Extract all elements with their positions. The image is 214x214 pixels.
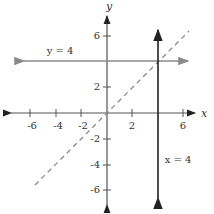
x-tick-label: 2 xyxy=(129,120,135,131)
y-tick-label: -4 xyxy=(90,159,100,170)
y-tick-label: 2 xyxy=(94,81,100,92)
label-x-equals-4: x = 4 xyxy=(165,154,192,165)
y-tick-label: 6 xyxy=(94,30,100,41)
x-tick-label: 6 xyxy=(180,120,186,131)
coordinate-plane: -6 -4 -2 2 6 x 6 2 -2 -4 -6 y y = 4 x = … xyxy=(0,0,214,214)
x-tick-label: -6 xyxy=(27,120,37,131)
x-axis-label: x xyxy=(201,107,208,120)
x-tick-label: -4 xyxy=(53,120,63,131)
y-axis: 6 2 -2 -4 -6 y xyxy=(90,0,113,205)
label-y-equals-4: y = 4 xyxy=(46,45,74,56)
x-axis: -6 -4 -2 2 6 x xyxy=(11,107,208,131)
y-tick-label: -6 xyxy=(90,184,100,195)
x-tick-label: -2 xyxy=(78,120,88,131)
y-tick-label: -2 xyxy=(90,133,100,144)
y-axis-label: y xyxy=(105,0,113,13)
